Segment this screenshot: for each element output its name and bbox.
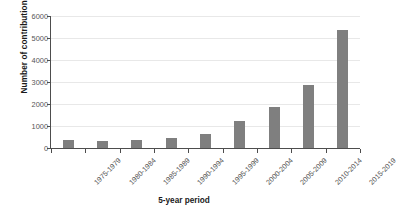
x-axis-tick-mark <box>154 149 155 153</box>
y-axis-tick-label: 5000 <box>18 34 48 43</box>
y-axis-tick-mark <box>47 16 51 17</box>
bar <box>166 138 177 148</box>
x-axis-tick-labels: 1975-19791980-19841985-19891990-19941995… <box>51 152 360 190</box>
y-axis-tick-label: 0 <box>18 144 48 153</box>
bar <box>269 107 280 148</box>
bar <box>131 140 142 148</box>
x-axis-tick-mark <box>291 149 292 153</box>
y-axis-tick-label: 2000 <box>18 100 48 109</box>
y-axis-tick-labels: 0100020003000400050006000 <box>18 16 48 148</box>
bar <box>234 121 245 148</box>
x-axis-tick-label: 1990-1994 <box>195 156 226 187</box>
x-axis-tick-label: 1980-1984 <box>127 156 158 187</box>
x-axis-tick-label: 1985-1989 <box>161 156 192 187</box>
y-axis-tick-label: 1000 <box>18 122 48 131</box>
y-axis-tick-mark <box>47 38 51 39</box>
x-axis-tick-mark <box>360 149 361 153</box>
bar <box>303 85 314 148</box>
y-axis-tick-mark <box>47 104 51 105</box>
bar <box>337 30 348 148</box>
y-axis-tick-label: 6000 <box>18 12 48 21</box>
x-axis-title: 5-year period <box>0 196 368 205</box>
x-axis-tick-mark <box>326 149 327 153</box>
y-axis-tick-label: 3000 <box>18 78 48 87</box>
x-axis-tick-label: 2015-2019 <box>367 156 398 187</box>
x-axis-tick-mark <box>51 149 52 153</box>
y-axis-tick-label: 4000 <box>18 56 48 65</box>
x-axis-tick-mark <box>188 149 189 153</box>
x-axis-tick-mark <box>120 149 121 153</box>
x-axis-tick-mark <box>223 149 224 153</box>
y-axis-tick-mark <box>47 126 51 127</box>
x-axis-tick-label: 2000-2004 <box>264 156 295 187</box>
x-axis-line <box>51 148 360 149</box>
x-axis-tick-label: 1975-1979 <box>92 156 123 187</box>
x-axis-tick-label: 2005-2009 <box>298 156 329 187</box>
x-axis-tick-mark <box>257 149 258 153</box>
x-axis-tick-label: 2010-2014 <box>333 156 364 187</box>
x-axis-tick-label: 1995-1999 <box>230 156 261 187</box>
bars-layer <box>51 16 360 148</box>
bar <box>63 140 74 148</box>
y-axis-tick-mark <box>47 82 51 83</box>
bar <box>97 141 108 148</box>
x-axis-tick-mark <box>85 149 86 153</box>
bar <box>200 134 211 148</box>
y-axis-tick-mark <box>47 60 51 61</box>
